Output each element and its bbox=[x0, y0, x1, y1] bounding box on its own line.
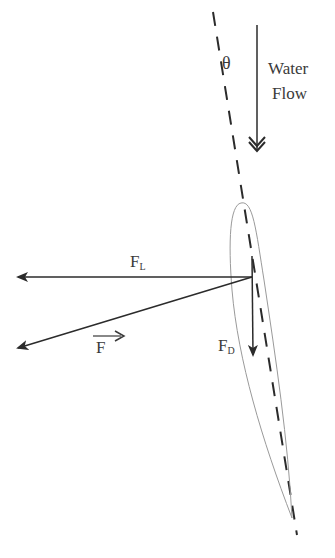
hydrofoil-outline bbox=[230, 203, 292, 518]
water-flow-label-line1: Water bbox=[268, 60, 308, 77]
angle-theta-label: θ bbox=[222, 54, 231, 72]
drag-force-label: FD bbox=[218, 337, 235, 356]
water-flow-label-line2: Flow bbox=[272, 85, 307, 102]
resultant-force-label: F bbox=[96, 339, 105, 356]
lift-force-label: FL bbox=[130, 253, 146, 272]
resultant-force-arrow bbox=[18, 277, 252, 348]
drag-force-arrow bbox=[252, 256, 253, 355]
